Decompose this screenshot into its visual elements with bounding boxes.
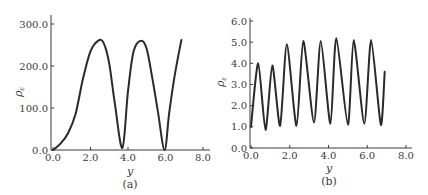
panel-a-y-label: ρε	[12, 87, 26, 98]
x-tick-label: 0.0	[243, 150, 259, 161]
panel-b-x-ticks: 0.02.04.06.08.0	[243, 145, 414, 161]
x-tick-label: 0.0	[45, 152, 61, 163]
panel-a-x-label: y	[126, 165, 134, 178]
y-tick-label: 5.0	[231, 37, 247, 48]
panel-a: 0.0100.0200.0300.0 0.02.04.06.08.0 ρε y …	[12, 15, 211, 191]
x-tick-label: 6.0	[359, 150, 375, 161]
x-tick-label: 2.0	[83, 152, 99, 163]
panel-a-caption: (a)	[122, 178, 137, 191]
y-tick-label: 6.0	[231, 16, 247, 27]
panel-a-curve	[53, 40, 181, 150]
panel-b-y-label: ρε	[214, 77, 228, 88]
panel-a-axes	[51, 15, 210, 150]
x-tick-label: 4.0	[120, 152, 136, 163]
x-tick-label: 8.0	[398, 150, 414, 161]
panel-b-x-label: y	[325, 162, 333, 175]
y-tick-label: 300.0	[19, 19, 48, 30]
y-tick-label: 200.0	[19, 61, 48, 72]
figure: 0.0100.0200.0300.0 0.02.04.06.08.0 ρε y …	[0, 0, 428, 195]
y-tick-label: 100.0	[19, 103, 48, 114]
y-tick-label: 3.0	[231, 79, 247, 90]
panel-b-curve	[251, 38, 385, 130]
panel-a-x-ticks: 0.02.04.06.08.0	[45, 147, 211, 163]
y-tick-label: 1.0	[231, 121, 247, 132]
y-tick-label: 2.0	[231, 100, 247, 111]
x-tick-label: 4.0	[321, 150, 337, 161]
x-tick-label: 2.0	[282, 150, 298, 161]
y-tick-label: 4.0	[231, 58, 247, 69]
x-tick-label: 6.0	[158, 152, 174, 163]
x-tick-label: 8.0	[195, 152, 211, 163]
panel-b-caption: (b)	[321, 175, 337, 188]
panel-b: 0.01.02.03.04.05.06.0 0.02.04.06.08.0 ρε…	[214, 16, 414, 189]
